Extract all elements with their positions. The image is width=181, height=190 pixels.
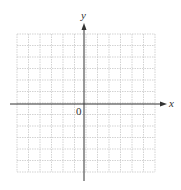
y-axis-arrow-icon	[82, 23, 87, 30]
grid-lines	[17, 34, 155, 172]
x-axis-label: x	[168, 97, 174, 109]
origin-label: 0	[76, 105, 82, 117]
y-axis-label: y	[80, 9, 86, 21]
coordinate-plane: x y 0	[0, 0, 181, 190]
x-axis-arrow-icon	[160, 102, 167, 107]
